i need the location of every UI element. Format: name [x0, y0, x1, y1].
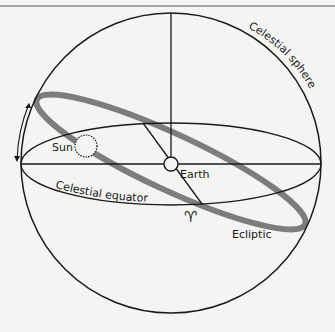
ecliptic-label: Ecliptic [232, 228, 272, 241]
aries-symbol: ♈ [184, 208, 197, 226]
earth-icon [164, 157, 178, 171]
earth-label: Earth [180, 168, 210, 181]
sun-label: Sun [52, 141, 73, 154]
sun-icon [75, 135, 97, 157]
diagram-canvas: Celestial sphere Sun Earth Celestial equ… [0, 0, 335, 332]
arrow-head-up-icon [25, 103, 31, 108]
arrow-head-down-icon [14, 156, 20, 162]
celestial-sphere-diagram: Celestial sphere Sun Earth Celestial equ… [0, 0, 335, 332]
celestial-sphere-label: Celestial sphere [247, 19, 319, 91]
